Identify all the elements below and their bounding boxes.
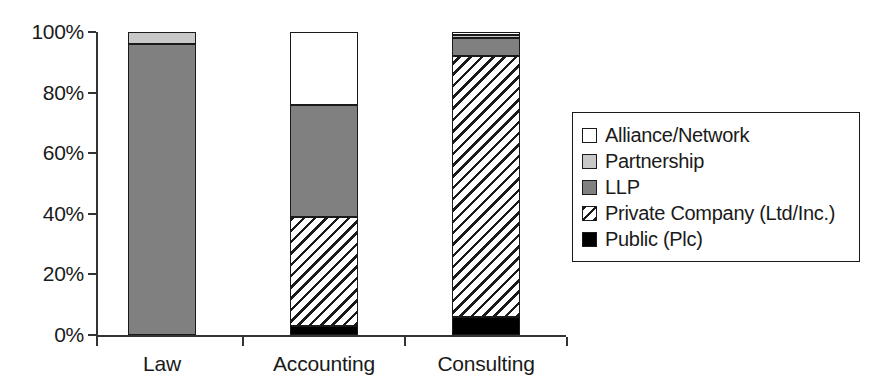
legend: Alliance/NetworkPartnershipLLPPrivate Co… (572, 112, 860, 262)
legend-label: Partnership (605, 151, 704, 171)
y-tick-label: 0% (54, 323, 84, 347)
y-tick-label: 100% (31, 20, 84, 44)
legend-swatch-icon (582, 128, 597, 143)
y-tick-label: 40% (43, 202, 84, 226)
bar-segment[interactable] (452, 38, 520, 56)
x-axis-label-law: Law (143, 352, 181, 376)
bar-law[interactable] (128, 32, 196, 335)
legend-item[interactable]: Partnership (582, 148, 849, 174)
bar-segment[interactable] (452, 317, 520, 335)
legend-item[interactable]: LLP (582, 174, 849, 200)
legend-label: Alliance/Network (605, 125, 749, 145)
bar-segment[interactable] (452, 56, 520, 317)
y-tick-mark (88, 273, 96, 275)
y-tick-label: 60% (43, 141, 84, 165)
plot-area: 0%20%40%60%80%100% LawAccountingConsulti… (96, 32, 566, 335)
y-tick-mark (88, 31, 96, 33)
legend-swatch-icon (582, 232, 597, 247)
bar-segment[interactable] (290, 326, 358, 335)
legend-label: LLP (605, 177, 640, 197)
bar-segment[interactable] (290, 32, 358, 105)
legend-item[interactable]: Private Company (Ltd/Inc.) (582, 200, 849, 226)
bar-consulting[interactable] (452, 32, 520, 335)
legend-label: Public (Plc) (605, 229, 703, 249)
y-tick-mark (88, 92, 96, 94)
bar-segment[interactable] (290, 217, 358, 326)
legend-swatch-icon (582, 154, 597, 169)
x-axis-label-accounting: Accounting (273, 352, 375, 376)
x-axis-label-consulting: Consulting (437, 352, 534, 376)
x-tick-mark (404, 337, 406, 346)
x-tick-mark (96, 337, 98, 346)
legend-item[interactable]: Alliance/Network (582, 122, 849, 148)
legend-label: Private Company (Ltd/Inc.) (605, 203, 835, 223)
x-tick-mark (566, 337, 568, 346)
y-axis-line (96, 32, 98, 335)
bar-segment[interactable] (128, 32, 196, 44)
stacked-bar-chart: 0%20%40%60%80%100% LawAccountingConsulti… (0, 0, 869, 390)
bar-segment[interactable] (290, 105, 358, 217)
y-tick-label: 80% (43, 81, 84, 105)
x-axis-line (96, 335, 566, 337)
legend-swatch-icon (582, 180, 597, 195)
legend-item[interactable]: Public (Plc) (582, 226, 849, 252)
bar-accounting[interactable] (290, 32, 358, 335)
y-tick-mark (88, 152, 96, 154)
y-tick-mark (88, 213, 96, 215)
legend-swatch-icon (582, 206, 597, 221)
y-tick-label: 20% (43, 262, 84, 286)
bar-segment[interactable] (128, 44, 196, 335)
y-tick-mark (88, 334, 96, 336)
x-tick-mark (242, 337, 244, 346)
